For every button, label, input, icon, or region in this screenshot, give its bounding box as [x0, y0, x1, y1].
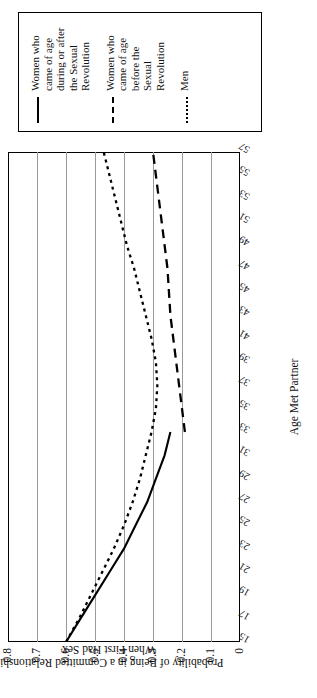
y-axis-tick-label: 0.5	[89, 648, 101, 696]
y-axis-tick-label: 0.3	[147, 648, 159, 696]
legend-box: Women who came of age during or after th…	[18, 12, 262, 132]
y-axis-tick-label: 0.2	[176, 648, 188, 696]
legend-line-swatch-icon	[181, 97, 193, 123]
plot-area	[8, 152, 240, 642]
chart-figure: Probability of Being in a Committed Rela…	[0, 0, 317, 698]
y-axis-tick-label: 0.1	[205, 648, 217, 696]
legend-item: Men	[178, 21, 193, 123]
legend-line-swatch-icon	[107, 97, 119, 123]
rotated-figure-container: Probability of Being in a Committed Rela…	[0, 0, 317, 698]
y-axis-tick-label: 0.8	[2, 648, 14, 696]
series-line	[66, 432, 170, 642]
legend-item: Women who came of age before the Sexual …	[104, 21, 167, 123]
legend-item-label: Men	[178, 71, 191, 91]
legend-line-swatch-icon	[32, 97, 44, 123]
y-axis-tick-label: 0.4	[118, 648, 130, 696]
legend-item: Women who came of age during or after th…	[29, 21, 92, 123]
y-axis-tick-label: 0.7	[31, 648, 43, 696]
x-axis-title: Age Met Partner	[288, 152, 300, 642]
x-axis-tick-labels: 1517192123252729313335373941434547495153…	[242, 152, 282, 642]
y-axis-tick-label: 0	[234, 648, 246, 696]
y-axis-tick-label: 0.6	[60, 648, 72, 696]
series-line	[153, 152, 185, 432]
legend-item-label: Women who came of age before the Sexual …	[104, 21, 167, 91]
series-lines	[8, 152, 240, 642]
y-axis-tick-labels: 0.80.70.60.50.40.30.20.10	[8, 644, 240, 698]
legend-item-label: Women who came of age during or after th…	[29, 21, 92, 91]
